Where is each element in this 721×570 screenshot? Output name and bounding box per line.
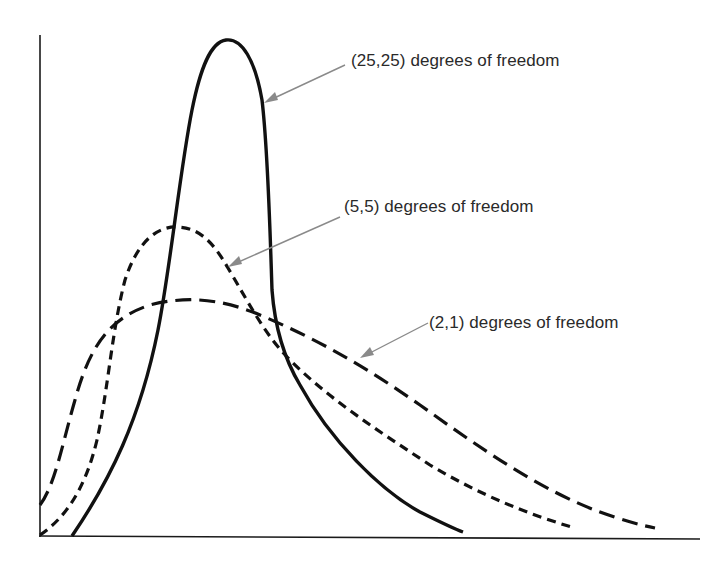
label-5-5-dof: (5,5) degrees of freedom xyxy=(344,197,534,217)
label-25-25-dof: (25,25) degrees of freedom xyxy=(351,51,560,71)
arrow-5-5 xyxy=(228,217,340,267)
curve-25-25-dof xyxy=(72,40,463,536)
arrow-25-25 xyxy=(264,65,345,103)
curve-5-5-dof xyxy=(40,227,575,535)
f-distribution-chart xyxy=(0,0,721,570)
arrow-2-1 xyxy=(360,323,428,358)
curve-2-1-dof xyxy=(40,300,655,528)
label-2-1-dof: (2,1) degrees of freedom xyxy=(429,313,619,333)
x-axis xyxy=(39,536,700,539)
